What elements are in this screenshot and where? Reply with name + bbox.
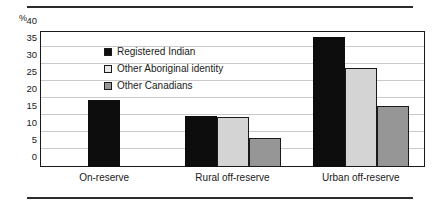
bar [185,116,217,167]
legend-swatch-icon [104,65,112,73]
y-axis-tick-label: 0 [15,152,37,162]
bars-group [40,31,425,167]
y-axis-tick-label: 15 [15,101,37,111]
bar [88,100,120,167]
legend-label: Other Canadians [117,80,193,92]
x-axis-category-label: On-reserve [79,172,129,184]
bottom-divider-rule [27,197,413,199]
top-divider-rule [27,6,413,8]
bar [377,106,409,167]
legend-swatch-icon [104,48,112,56]
y-axis-tick-label: 40 [15,16,37,26]
y-axis-tick-label: 35 [15,33,37,43]
bar [249,138,281,167]
legend-item: Other Canadians [104,78,223,94]
bar-chart-figure: % 0510152025303540 On-reserveRural off-r… [0,0,440,208]
legend-label: Registered Indian [117,46,195,58]
legend-swatch-icon [104,82,112,90]
chart-legend: Registered IndianOther Aboriginal identi… [104,44,223,95]
legend-label: Other Aboriginal identity [117,63,223,75]
legend-item: Other Aboriginal identity [104,61,223,77]
y-axis-tick-label: 5 [15,135,37,145]
x-axis-category-label: Rural off-reserve [195,172,269,184]
y-axis-tick-labels: 0510152025303540 [12,31,37,167]
y-axis-tick-label: 10 [15,118,37,128]
bar [345,68,377,167]
y-axis-tick-label: 20 [15,84,37,94]
bar [217,117,249,167]
bar [313,37,345,167]
legend-item: Registered Indian [104,44,223,60]
x-axis-category-labels: On-reserveRural off-reserveUrban off-res… [40,172,425,186]
x-axis-category-label: Urban off-reserve [322,172,400,184]
y-axis-tick-label: 25 [15,67,37,77]
y-axis-tick-label: 30 [15,50,37,60]
